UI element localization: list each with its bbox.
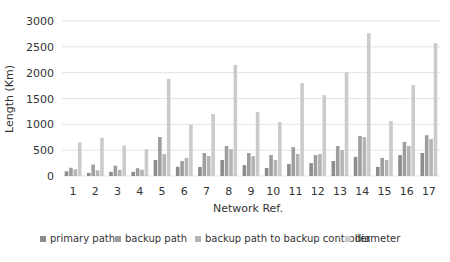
bar <box>225 146 229 176</box>
bar-group <box>420 43 437 176</box>
legend-label: diameter <box>355 233 401 244</box>
y-tick-label: 3000 <box>26 15 54 28</box>
bar <box>425 135 429 176</box>
bar <box>434 43 438 176</box>
bar <box>100 138 104 176</box>
bar <box>167 79 171 176</box>
legend-item: backup path to backup controller <box>195 233 371 244</box>
x-tick-label: 3 <box>114 185 121 198</box>
bar <box>220 160 224 176</box>
bar <box>278 122 282 176</box>
bar-group <box>309 95 326 176</box>
bar <box>300 83 304 176</box>
x-tick-label: 12 <box>311 185 325 198</box>
y-axis-ticks: 050010001500200025003000 <box>26 15 54 183</box>
bar <box>140 170 144 176</box>
bar <box>114 166 118 176</box>
bar <box>96 170 100 176</box>
x-tick-label: 6 <box>181 185 188 198</box>
bar <box>185 158 189 176</box>
bar <box>74 169 78 176</box>
bar <box>332 161 336 176</box>
bar <box>203 153 207 176</box>
bar <box>363 137 367 176</box>
bar-group <box>154 79 171 176</box>
x-tick-label: 11 <box>288 185 302 198</box>
bar <box>309 163 313 176</box>
bar <box>411 85 415 176</box>
bar-chart: 050010001500200025003000 Length (Km) 123… <box>0 0 450 262</box>
bar-group <box>131 149 148 176</box>
y-tick-label: 1500 <box>26 93 54 106</box>
bar-group <box>287 83 304 176</box>
bar <box>234 65 238 176</box>
x-tick-label: 7 <box>203 185 210 198</box>
bar-group <box>198 114 215 176</box>
bar <box>251 156 255 176</box>
y-tick-label: 0 <box>47 170 54 183</box>
bar <box>176 167 180 176</box>
x-axis-ticks: 1234567891011121314151617 <box>70 185 436 198</box>
legend-item: backup path <box>115 233 187 244</box>
bar <box>340 150 344 176</box>
y-tick-label: 1000 <box>26 118 54 131</box>
bar <box>287 164 291 176</box>
bar <box>247 153 251 176</box>
bar <box>78 142 82 176</box>
bar <box>318 154 322 176</box>
legend-label: backup path <box>125 233 187 244</box>
legend-swatch <box>40 236 46 242</box>
bar <box>65 171 69 176</box>
bar <box>358 136 362 176</box>
x-tick-label: 8 <box>225 185 232 198</box>
bar <box>269 155 273 176</box>
bar <box>189 125 193 176</box>
bar <box>256 112 260 176</box>
x-tick-label: 15 <box>377 185 391 198</box>
x-tick-label: 9 <box>248 185 255 198</box>
bar-group <box>265 122 282 176</box>
x-tick-label: 5 <box>159 185 166 198</box>
legend: primary pathbackup pathbackup path to ba… <box>40 233 401 244</box>
bar-group <box>87 138 104 176</box>
bar-group <box>220 65 237 176</box>
bar <box>336 146 340 176</box>
bar <box>380 158 384 176</box>
x-tick-label: 17 <box>422 185 436 198</box>
bar <box>291 147 295 176</box>
bar <box>91 165 95 176</box>
bar <box>367 33 371 176</box>
bar <box>136 168 140 176</box>
bar <box>162 154 166 176</box>
legend-swatch <box>195 236 201 242</box>
x-tick-label: 4 <box>136 185 143 198</box>
x-tick-label: 14 <box>355 185 369 198</box>
y-tick-label: 2500 <box>26 41 54 54</box>
bar <box>109 172 113 176</box>
bar <box>389 121 393 176</box>
bar <box>376 167 380 176</box>
bar <box>118 170 122 176</box>
bar <box>243 165 247 176</box>
x-tick-label: 2 <box>92 185 99 198</box>
bar <box>398 155 402 176</box>
bar <box>407 146 411 176</box>
bar <box>265 168 269 176</box>
legend-swatch <box>115 236 121 242</box>
x-tick-label: 1 <box>70 185 77 198</box>
bar <box>198 167 202 176</box>
y-tick-label: 500 <box>33 144 54 157</box>
bar <box>429 139 433 176</box>
bar <box>180 161 184 176</box>
bar <box>211 114 215 176</box>
x-tick-label: 10 <box>266 185 280 198</box>
bar <box>154 160 158 176</box>
x-tick-label: 16 <box>400 185 414 198</box>
bar <box>87 173 91 176</box>
bar <box>122 146 126 176</box>
bar <box>158 137 162 176</box>
bar-group <box>65 142 82 176</box>
bar <box>207 156 211 176</box>
bar <box>145 149 149 176</box>
x-axis-label: Network Ref. <box>213 202 283 215</box>
